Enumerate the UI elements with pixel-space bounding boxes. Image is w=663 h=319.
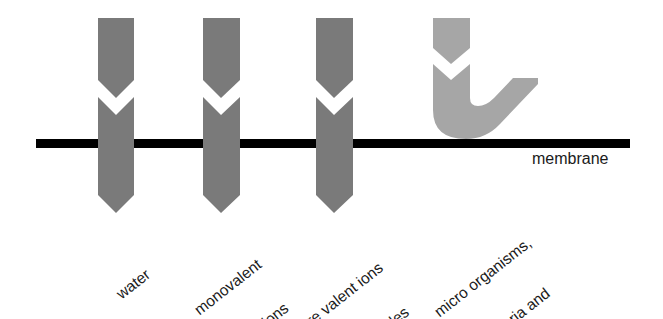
arrow-micro-organisms-rejected — [433, 18, 538, 139]
arrow-monovalent — [203, 18, 240, 213]
membrane-filtration-diagram: membrane water monovalent small ions mor… — [0, 0, 663, 319]
membrane-label: membrane — [532, 150, 608, 168]
label-line: water — [113, 265, 153, 302]
arrow-multivalent — [316, 18, 353, 213]
arrow-water — [98, 18, 134, 213]
label-line: monovalent — [191, 255, 265, 318]
